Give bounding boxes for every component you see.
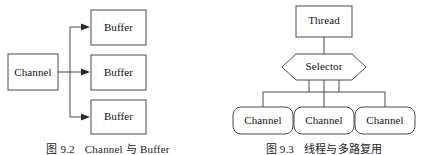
figure-right-caption-number: 图 9.3 [266, 143, 295, 155]
node-buffer-2[interactable]: Buffer [91, 55, 146, 90]
arrow-head-icon-3 [81, 114, 90, 121]
node-channel[interactable]: Channel [8, 54, 58, 90]
node-thread-label: Thread [308, 14, 340, 26]
figure-left-caption: 图 9.2Channel 与 Buffer [0, 140, 216, 155]
channel-buffer-diagram: Channel Buffer Buffer Buffer [0, 0, 216, 140]
node-buffer-3[interactable]: Buffer [91, 100, 146, 134]
node-selector[interactable]: Selector [282, 54, 366, 80]
node-buffer-1[interactable]: Buffer [91, 10, 146, 45]
node-channel-3[interactable]: Channel [355, 107, 415, 134]
figure-left-caption-number: 图 9.2 [46, 143, 75, 155]
node-channel-1[interactable]: Channel [233, 107, 293, 134]
node-selector-label: Selector [306, 60, 343, 72]
node-channel-3-label: Channel [366, 114, 403, 126]
node-channel-2[interactable]: Channel [294, 107, 354, 134]
node-buffer-3-label: Buffer [104, 110, 133, 122]
node-channel-label: Channel [14, 66, 51, 78]
node-buffer-2-label: Buffer [104, 66, 133, 78]
figure-right-caption-title: 线程与多路复用 [304, 143, 382, 155]
arrow-head-group [81, 24, 90, 121]
connector-group [58, 27, 81, 117]
thread-selector-diagram: Thread Selector Channel Channel Channel [216, 0, 432, 140]
figure-left-caption-title: Channel 与 Buffer [85, 143, 170, 155]
figure-channel-buffer: Channel Buffer Buffer Buffer 图 9.2Channe… [0, 0, 216, 155]
arrow-head-icon-2 [81, 69, 90, 76]
node-channel-2-label: Channel [305, 114, 342, 126]
figure-thread-selector: Thread Selector Channel Channel Channel [216, 0, 432, 155]
node-channel-1-label: Channel [244, 114, 281, 126]
node-thread[interactable]: Thread [296, 6, 352, 37]
node-buffer-1-label: Buffer [104, 21, 133, 33]
figure-page: Channel Buffer Buffer Buffer 图 9.2Channe… [0, 0, 432, 155]
arrow-head-icon-1 [81, 24, 90, 31]
figure-right-caption: 图 9.3线程与多路复用 [216, 140, 432, 155]
